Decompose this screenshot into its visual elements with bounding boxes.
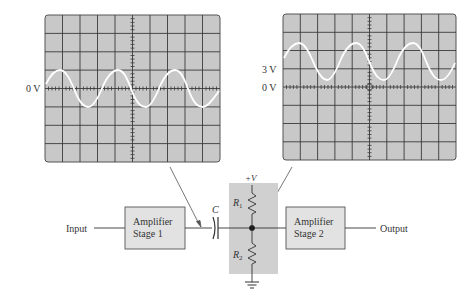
scope-right-offset-label: 3 V xyxy=(262,64,277,75)
capacitor-label: C xyxy=(212,204,219,215)
stage2-label-line1: Amplifier xyxy=(294,216,334,227)
scope-right: 3 V 0 V xyxy=(262,14,456,160)
scope-left: 0 V xyxy=(26,15,220,162)
diagram-canvas: 0 V 3 V 0 V xyxy=(0,0,475,299)
stage2-label-line2: Stage 2 xyxy=(294,228,324,239)
scope-right-zero-label: 0 V xyxy=(262,82,277,93)
arrowhead-left xyxy=(197,221,202,228)
supply-label: +V xyxy=(245,173,258,183)
input-label: Input xyxy=(66,223,87,234)
ground-icon xyxy=(245,282,259,288)
stage1-label-line1: Amplifier xyxy=(133,216,173,227)
capacitor-symbol xyxy=(213,217,215,239)
stage1-label-line2: Stage 1 xyxy=(133,228,163,239)
scope-left-zero-label: 0 V xyxy=(26,83,41,94)
output-label: Output xyxy=(380,223,408,234)
